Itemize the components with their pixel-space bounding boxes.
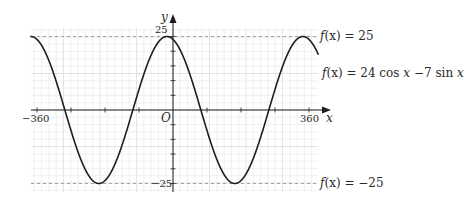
annot-text: (x) = 25 bbox=[324, 29, 373, 43]
annotation-min-line: f(x) = −25 bbox=[320, 177, 384, 189]
annot-text: −7 sin bbox=[410, 66, 457, 80]
origin-label: O bbox=[161, 112, 171, 124]
y-axis-label: y bbox=[161, 11, 168, 23]
annot-text: (x) = 24 cos bbox=[326, 66, 403, 80]
annot-text: (x) = −25 bbox=[324, 176, 383, 190]
x-tick-neg-360: −360 bbox=[22, 114, 49, 124]
x-tick-360: 360 bbox=[300, 114, 319, 124]
annot-x: x bbox=[457, 66, 464, 80]
y-tick-neg-25: −25 bbox=[151, 179, 172, 189]
x-axis-label: x bbox=[326, 112, 333, 124]
graph-canvas bbox=[0, 0, 471, 200]
annotation-max-line: f(x) = 25 bbox=[320, 30, 374, 42]
annotation-function: f(x) = 24 cos x −7 sin x bbox=[322, 67, 464, 79]
y-tick-25: 25 bbox=[155, 25, 168, 35]
